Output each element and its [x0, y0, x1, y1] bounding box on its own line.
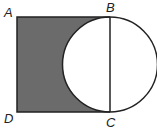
label-d: D — [4, 111, 13, 126]
square-circle-diagram: A B C D — [0, 0, 157, 129]
label-c: C — [106, 115, 116, 129]
label-a: A — [3, 5, 13, 20]
label-b: B — [106, 0, 115, 15]
